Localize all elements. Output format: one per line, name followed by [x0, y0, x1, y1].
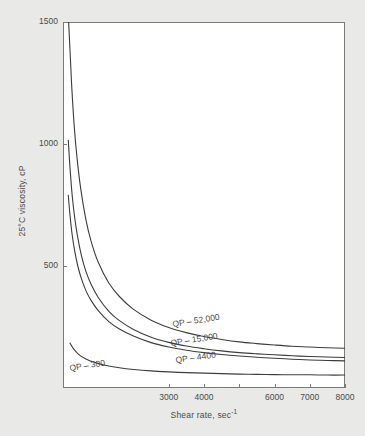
x-tick-label: 8000: [325, 392, 365, 402]
y-tick-label: 1500: [17, 16, 58, 26]
y-axis-label: 25°C viscosity, cP: [17, 141, 27, 261]
x-axis-label: Shear rate, sec-1: [63, 410, 345, 420]
x-tick-label: 4000: [184, 392, 224, 402]
x-axis-label-text: Shear rate, sec: [171, 410, 232, 420]
x-tick-label: 3000: [149, 392, 189, 402]
y-tick-label: 1000: [17, 138, 58, 148]
chart-figure: QP – 52,000QP – 15,000QP – 4400QP – 300 …: [0, 0, 365, 436]
y-tick-label: 500: [17, 260, 58, 270]
plot-canvas: QP – 52,000QP – 15,000QP – 4400QP – 300: [0, 0, 365, 436]
x-axis-label-exponent: -1: [231, 408, 237, 415]
x-tick-label: 6000: [255, 392, 295, 402]
x-tick-label: 7000: [290, 392, 330, 402]
